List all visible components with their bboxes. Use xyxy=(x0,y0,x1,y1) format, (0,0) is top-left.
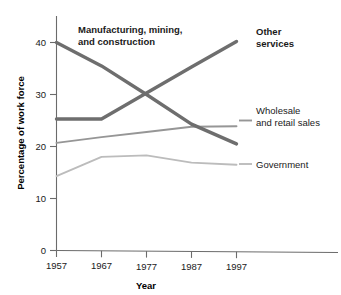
annotation-government-line1: Government xyxy=(256,159,309,170)
workforce-line-chart: 0 10 20 30 40 1957 1967 1977 1987 1997 Y… xyxy=(0,0,341,295)
annotation-other-services-line2: services xyxy=(256,38,294,49)
x-tick-label-1957: 1957 xyxy=(46,260,67,271)
x-tick-label-1997: 1997 xyxy=(226,261,247,272)
x-axis-title: Year xyxy=(136,280,156,291)
x-tick-label-1977: 1977 xyxy=(136,261,157,272)
y-axis-title: Percentage of work force xyxy=(15,76,26,190)
annotation-manufacturing-line1: Manufacturing, mining, xyxy=(78,24,183,35)
annotation-other-services-line1: Other xyxy=(256,26,282,37)
chart-canvas: 0 10 20 30 40 1957 1967 1977 1987 1997 Y… xyxy=(0,0,341,295)
y-tick-label-30: 30 xyxy=(35,89,46,100)
annotation-wholesale-line2: and retail sales xyxy=(256,117,320,128)
y-tick-label-0: 0 xyxy=(41,245,46,256)
annotation-wholesale-line1: Wholesale xyxy=(256,105,300,116)
annotation-manufacturing-line2: and construction xyxy=(78,36,155,47)
x-tick-label-1987: 1987 xyxy=(181,261,202,272)
x-tick-label-1967: 1967 xyxy=(91,260,112,271)
y-tick-label-40: 40 xyxy=(35,37,46,48)
y-tick-label-20: 20 xyxy=(35,141,46,152)
y-tick-label-10: 10 xyxy=(35,193,46,204)
